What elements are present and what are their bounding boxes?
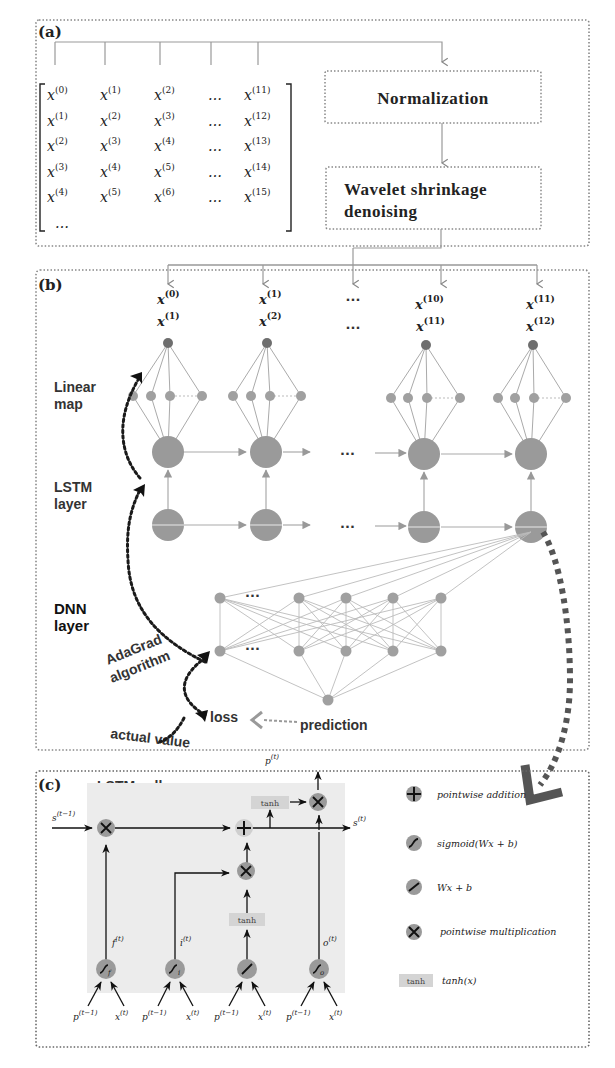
svg-text:tanh: tanh [407, 977, 425, 986]
svg-text:…: … [208, 87, 222, 103]
svg-text:x(1): x(1) [258, 289, 282, 307]
lstm-node [515, 438, 547, 470]
svg-text:pointwise multiplication: pointwise multiplication [440, 926, 556, 937]
svg-text:x(1): x(1) [47, 111, 68, 129]
svg-text:x(0): x(0) [47, 85, 68, 103]
svg-text:x(13): x(13) [244, 136, 270, 154]
svg-text:x(1): x(1) [100, 85, 121, 103]
lstm-layer-label-1: LSTM [54, 479, 92, 495]
svg-text:…: … [208, 113, 222, 129]
matrix-left-bracket [40, 84, 45, 231]
svg-text:Wx + b: Wx + b [437, 882, 472, 893]
adagrad-feedback-arrows [123, 380, 205, 742]
svg-text:…: … [208, 189, 222, 205]
timestep-inputs: x(0) x(1) x(1) x(2) ··· ··· x(10) x(11) … [156, 289, 555, 335]
svg-text:…: … [55, 215, 69, 231]
svg-text:x(12): x(12) [525, 316, 555, 334]
wavelet-label-line2: denoising [344, 202, 417, 221]
sigmoid-gate-output: o [309, 959, 329, 979]
svg-text:x(12): x(12) [244, 111, 270, 129]
svg-text:x(2): x(2) [100, 111, 121, 129]
loss-label: loss [210, 709, 238, 725]
matrix-right-bracket [286, 84, 291, 231]
panel-b: (b) x(0) x(1) x(1) x(2) ··· ··· x(10) x(… [36, 248, 589, 800]
svg-text:x(3): x(3) [154, 111, 175, 129]
svg-text:x(6): x(6) [154, 187, 175, 205]
multiply-node-forget [97, 819, 115, 837]
svg-text:x(11): x(11) [244, 85, 270, 103]
input-matrix: x(0) x(1) x(2) … x(11) x(1) x(2) x(3) … … [47, 85, 270, 231]
svg-text:s(t−1): s(t−1) [52, 810, 75, 823]
multiply-node-input [237, 862, 255, 880]
linear-map-label-1: Linear [54, 379, 97, 395]
svg-text:x(1): x(1) [156, 311, 180, 329]
dnn-connections [220, 532, 531, 700]
sigmoid-gate-input: i [165, 959, 185, 979]
svg-text:x(3): x(3) [47, 162, 68, 180]
svg-text:pointwise addition: pointwise addition [437, 789, 526, 800]
linear-node-candidate [237, 959, 257, 979]
svg-text:x(t): x(t) [258, 1009, 272, 1022]
svg-text:p(t−1): p(t−1) [214, 1009, 239, 1022]
lstm-node [408, 438, 440, 470]
svg-text:···: ··· [245, 641, 260, 656]
svg-text:o: o [320, 969, 324, 977]
expand-to-lstm-cell-arrow [540, 532, 570, 785]
svg-text:x(11): x(11) [415, 316, 445, 334]
svg-text:x(2): x(2) [47, 136, 68, 154]
svg-text:x(11): x(11) [525, 294, 555, 312]
legend-item-pointwise-multiplication: pointwise multiplication [406, 924, 556, 940]
output-node [163, 338, 173, 348]
panel-c-label: (c) [38, 776, 61, 794]
svg-text:x(5): x(5) [100, 187, 121, 205]
output-nodes [163, 338, 538, 350]
panel-a: (a) x(0) x(1) x(2) … x(11) x(1) x(2) x(3… [36, 20, 589, 248]
svg-text:i: i [178, 969, 180, 977]
svg-text:x(3): x(3) [100, 136, 121, 154]
lstm-node [250, 436, 282, 468]
svg-text:p(t−1): p(t−1) [73, 1009, 98, 1022]
multiply-node-output [309, 793, 327, 811]
svg-text:x(10): x(10) [414, 294, 444, 312]
svg-text:p(t−1): p(t−1) [142, 1009, 167, 1022]
svg-text:x(4): x(4) [47, 187, 68, 205]
prediction-label: prediction [300, 717, 368, 733]
actual-value-label: actual value [110, 725, 192, 751]
svg-text:x(14): x(14) [244, 162, 270, 180]
panel-a-label: (a) [38, 23, 62, 41]
dnn-layer-label-2: layer [54, 617, 89, 634]
svg-text:…: … [208, 138, 222, 154]
svg-text:x(0): x(0) [156, 289, 180, 307]
svg-text:···: ··· [346, 292, 361, 307]
svg-text:x(t): x(t) [186, 1009, 200, 1022]
svg-text:…: … [208, 164, 222, 180]
svg-text:p(t−1): p(t−1) [286, 1009, 311, 1022]
svg-text:x(15): x(15) [244, 187, 270, 205]
dnn-layer-label-1: DNN [54, 600, 87, 617]
svg-text:tanh: tanh [238, 916, 256, 925]
svg-text:p(t): p(t) [265, 753, 279, 766]
svg-text:tanh(x): tanh(x) [442, 975, 477, 986]
svg-text:···: ··· [340, 519, 355, 534]
prediction-node [323, 695, 334, 706]
svg-text:···: ··· [245, 588, 260, 603]
svg-text:···: ··· [340, 446, 355, 461]
svg-text:x(2): x(2) [154, 85, 175, 103]
panel-b-label: (b) [38, 276, 63, 294]
lstm-cell-background [87, 783, 345, 993]
legend-item-pointwise-addition: pointwise addition [406, 786, 526, 802]
svg-text:s(t): s(t) [353, 815, 366, 828]
legend-item-tanh: tanh tanh(x) [399, 974, 477, 987]
output-node [262, 338, 272, 348]
svg-text:x(t): x(t) [115, 1009, 129, 1022]
svg-text:x(4): x(4) [154, 136, 175, 154]
svg-text:sigmoid(Wx + b): sigmoid(Wx + b) [437, 838, 518, 849]
gate-input-labels: p(t−1) x(t) p(t−1) x(t) p(t−1) x(t) p(t−… [73, 1009, 343, 1022]
svg-text:x(t): x(t) [329, 1009, 343, 1022]
svg-text:tanh: tanh [261, 799, 279, 808]
svg-text:x(2): x(2) [258, 311, 282, 329]
output-node [528, 340, 538, 350]
legend-item-linear: Wx + b [406, 879, 472, 895]
lstm-layer-label-2: layer [54, 496, 87, 512]
panel-c: (c) LSTM cell p(t) [36, 753, 589, 1047]
